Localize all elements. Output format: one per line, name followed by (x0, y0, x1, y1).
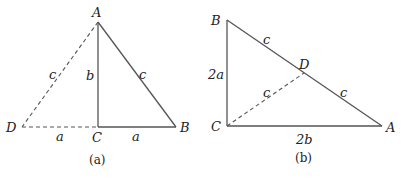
edge-bd-label: c (263, 32, 271, 47)
edge-da-label: c (340, 85, 348, 100)
edge-ac-label: b (86, 68, 94, 83)
vertex-d-label: D (5, 120, 17, 135)
vertex-b-label: B (179, 120, 190, 135)
vertex-b-label: B (210, 13, 221, 28)
vertex-a-label: A (385, 120, 395, 135)
vertex-a-label: A (91, 5, 101, 20)
edge-bc-label: 2a (207, 67, 224, 82)
vertex-d-label: D (298, 57, 310, 72)
caption-a: (a) (89, 153, 106, 167)
edge-cd-label: c (263, 85, 271, 100)
edge-ab-label: c (139, 67, 147, 82)
edge-cb-label: a (132, 129, 140, 144)
vertex-c-label: C (92, 130, 102, 145)
edge-ca-label: 2b (295, 132, 313, 147)
figure-a: A B C D b c c a a (a) (5, 5, 190, 167)
figure-b: B C A D 2a 2b c c c (b) (207, 13, 395, 165)
edge-dc-label: a (56, 129, 64, 144)
geometry-figure: A B C D b c c a a (a) B C A D 2a 2b c c … (0, 0, 401, 180)
caption-b: (b) (295, 151, 312, 165)
vertex-c-label: C (211, 119, 221, 134)
edge-ad-label: c (49, 67, 57, 82)
edge-ab (98, 22, 176, 127)
